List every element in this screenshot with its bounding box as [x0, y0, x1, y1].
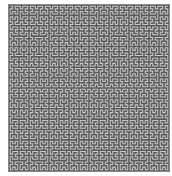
- hilbert-curve-figure: [8, 4, 170, 172]
- hilbert-polyline: [10, 6, 168, 169]
- hilbert-curve-path: [9, 5, 169, 171]
